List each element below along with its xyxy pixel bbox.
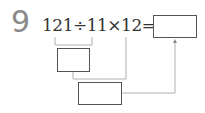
step1-box[interactable] [57,48,90,72]
step2-connector [121,42,175,93]
bracket-line [55,37,92,45]
step2-box[interactable] [78,82,122,105]
arrow-up-icon [173,39,177,43]
answer-box[interactable] [153,15,197,38]
